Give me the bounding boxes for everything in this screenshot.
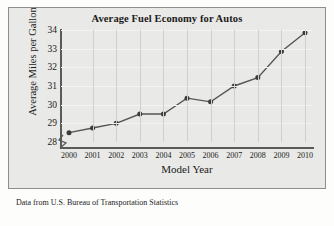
y-axis-tick-labels: 28293031323334 xyxy=(31,30,57,142)
x-tick-label: 2001 xyxy=(85,151,101,160)
x-tick-label: 2009 xyxy=(273,151,289,160)
gridline-vertical xyxy=(140,30,141,142)
gridline-vertical xyxy=(234,30,235,142)
y-tick-label: 34 xyxy=(35,25,57,35)
y-tick-label: 33 xyxy=(35,44,57,54)
x-tick-label: 2008 xyxy=(250,151,266,160)
x-axis-title: Model Year xyxy=(61,163,313,175)
chart-title: Average Fuel Economy for Autos xyxy=(9,13,325,24)
plot-area xyxy=(61,30,313,142)
x-tick-label: 2003 xyxy=(132,151,148,160)
x-tick-label: 2004 xyxy=(155,151,171,160)
gridline-vertical xyxy=(305,30,306,142)
source-note: Data from U.S. Bureau of Transportation … xyxy=(16,198,178,207)
x-tick-label: 2007 xyxy=(226,151,242,160)
chart-page: Average Fuel Economy for Autos Average M… xyxy=(0,0,334,226)
y-tick-label: 28 xyxy=(35,137,57,147)
x-tick-label: 2010 xyxy=(297,151,313,160)
gridline-vertical xyxy=(258,30,259,142)
x-axis-line xyxy=(60,147,314,149)
y-tick-label: 31 xyxy=(35,81,57,91)
gridline-vertical xyxy=(211,30,212,142)
gridline-vertical xyxy=(281,30,282,142)
y-tick-label: 30 xyxy=(35,100,57,110)
y-tick-label: 32 xyxy=(35,62,57,72)
x-tick-label: 2000 xyxy=(61,151,77,160)
x-axis-tick-labels: 2000200120022003200420052006200720082009… xyxy=(61,151,313,163)
data-point-marker xyxy=(67,130,72,135)
x-tick-label: 2002 xyxy=(108,151,124,160)
y-tick-label: 29 xyxy=(35,118,57,128)
x-tick-label: 2006 xyxy=(203,151,219,160)
gridline-vertical xyxy=(187,30,188,142)
gridline-vertical xyxy=(93,30,94,142)
chart-panel: Average Fuel Economy for Autos Average M… xyxy=(8,7,326,189)
gridline-vertical xyxy=(116,30,117,142)
x-tick-label: 2005 xyxy=(179,151,195,160)
gridline-vertical xyxy=(163,30,164,142)
